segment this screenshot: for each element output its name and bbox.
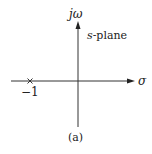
figure-caption: (a) [68, 131, 83, 144]
s-plane-diagram: jω s-plane σ −1 (a) [0, 0, 152, 154]
horizontal-axis-label: σ [138, 74, 147, 88]
pole-value-label: −1 [21, 85, 39, 99]
vertical-axis-label: jω [66, 7, 83, 21]
plane-label-suffix: -plane [93, 29, 127, 42]
imaginary-axis-arrowhead-icon [76, 21, 81, 29]
real-axis-arrowhead-icon [127, 79, 135, 84]
plane-label: s-plane [87, 29, 127, 42]
